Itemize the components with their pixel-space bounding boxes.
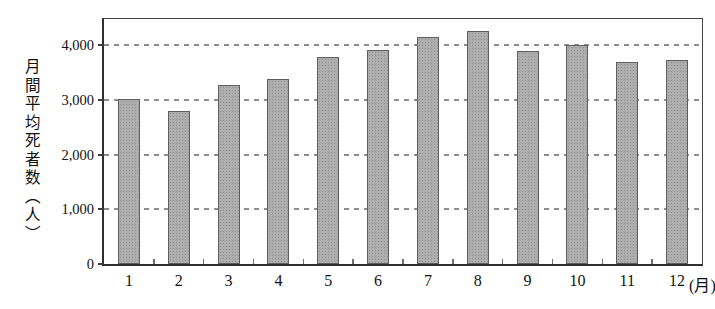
- x-label-3: 3: [225, 272, 233, 290]
- y-axis-title: 月間平均死者数（人）: [20, 58, 42, 243]
- x-tick-10: [602, 259, 604, 264]
- y-tick-label-3000: 3,000: [61, 93, 94, 107]
- y-tick-label-0: 0: [87, 257, 94, 271]
- bar-month-12: [666, 60, 688, 264]
- bar-month-6: [367, 50, 389, 264]
- x-tick-9: [552, 259, 554, 264]
- plot-area: 01,0002,0003,0004,000123456789101112(月): [102, 18, 703, 266]
- x-tick-7: [452, 259, 454, 264]
- x-label-8: 8: [474, 272, 482, 290]
- monthly-deaths-bar-chart-figure: 月間平均死者数（人） 01,0002,0003,0004,00012345678…: [0, 0, 715, 309]
- bar-month-4: [267, 79, 289, 264]
- y-tick-label-1000: 1,000: [61, 202, 94, 216]
- y-tick-2000: [98, 154, 104, 156]
- y-tick-1000: [98, 208, 104, 210]
- bar-month-10: [566, 45, 588, 264]
- x-tick-3: [253, 259, 255, 264]
- x-axis-unit-label: (月): [689, 272, 715, 296]
- bar-month-2: [168, 111, 190, 264]
- x-label-12: 12: [669, 272, 685, 290]
- x-label-10: 10: [569, 272, 585, 290]
- gridline-2000: [104, 154, 702, 156]
- gridline-1000: [104, 208, 702, 210]
- gridline-4000: [104, 44, 702, 46]
- bar-month-7: [417, 37, 439, 264]
- bar-month-1: [118, 99, 140, 264]
- x-tick-6: [402, 259, 404, 264]
- y-tick-0: [98, 263, 104, 265]
- y-tick-4000: [98, 44, 104, 46]
- x-label-1: 1: [125, 272, 133, 290]
- x-tick-1: [153, 259, 155, 264]
- bar-month-9: [517, 51, 539, 264]
- bar-month-8: [467, 31, 489, 264]
- x-label-7: 7: [424, 272, 432, 290]
- x-label-6: 6: [374, 272, 382, 290]
- gridline-3000: [104, 99, 702, 101]
- x-label-9: 9: [524, 272, 532, 290]
- x-tick-4: [303, 259, 305, 264]
- x-tick-5: [352, 259, 354, 264]
- x-tick-8: [502, 259, 504, 264]
- bar-month-3: [218, 85, 240, 264]
- y-tick-label-4000: 4,000: [61, 38, 94, 52]
- x-label-5: 5: [324, 272, 332, 290]
- bar-month-5: [317, 57, 339, 264]
- y-tick-label-2000: 2,000: [61, 148, 94, 162]
- y-tick-3000: [98, 99, 104, 101]
- x-label-2: 2: [175, 272, 183, 290]
- x-tick-11: [651, 259, 653, 264]
- bar-month-11: [616, 62, 638, 264]
- x-label-4: 4: [274, 272, 282, 290]
- x-label-11: 11: [620, 272, 635, 290]
- x-tick-2: [203, 259, 205, 264]
